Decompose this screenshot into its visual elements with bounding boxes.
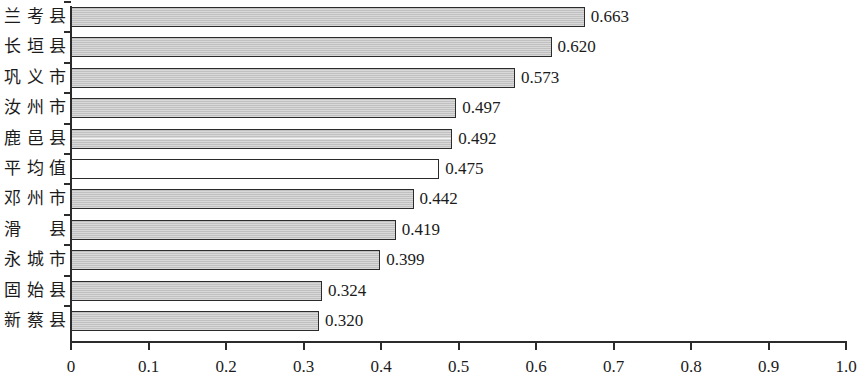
bar-value-label: 0.475 [445, 160, 483, 177]
y-axis-tick [64, 92, 71, 94]
bar-value-label: 0.399 [386, 251, 424, 268]
bar-value-label: 0.320 [325, 312, 363, 329]
x-axis-tick-label: 0.7 [589, 358, 639, 375]
x-axis-tick-label: 0.5 [434, 358, 484, 375]
scan-streak [72, 138, 451, 140]
bar-value-label: 0.419 [402, 221, 440, 238]
y-axis-tick [64, 214, 71, 216]
category-label: 平均值 [4, 160, 66, 177]
y-axis-tick [64, 183, 71, 185]
bar-value-label: 0.497 [462, 99, 500, 116]
bar-value-label: 0.663 [591, 8, 629, 25]
bar [71, 189, 414, 209]
category-label: 固始县 [4, 282, 66, 299]
y-axis-tick [64, 123, 71, 125]
x-axis-tick-label: 0.2 [201, 358, 251, 375]
category-label: 永城市 [4, 251, 66, 268]
bar [71, 37, 552, 57]
bar [71, 311, 319, 331]
bar [71, 68, 515, 88]
bar [71, 159, 439, 179]
x-axis-tick [380, 341, 382, 350]
bar-chart: 兰考县0.663长垣县0.620巩义市0.573汝州市0.497鹿邑县0.492… [0, 0, 861, 385]
x-axis-tick [148, 341, 150, 350]
category-label: 新蔡县 [4, 312, 66, 329]
x-axis-tick-label: 1.0 [821, 358, 861, 375]
y-axis-tick [64, 153, 71, 155]
bar [71, 98, 456, 118]
y-axis-tick [64, 31, 71, 33]
x-axis-tick-label: 0.1 [124, 358, 174, 375]
x-axis-tick [70, 341, 72, 350]
bar [71, 281, 322, 301]
x-axis-tick-label: 0.4 [356, 358, 406, 375]
x-axis-tick [303, 341, 305, 350]
bar-value-label: 0.620 [558, 38, 596, 55]
x-axis-tick [225, 341, 227, 350]
category-label: 汝州市 [4, 99, 66, 116]
category-label: 兰考县 [4, 8, 66, 25]
y-axis-tick [64, 275, 71, 277]
x-axis-tick [535, 341, 537, 350]
category-label: 鹿邑县 [4, 130, 66, 147]
bar-value-label: 0.324 [328, 282, 366, 299]
x-axis-tick-label: 0 [46, 358, 96, 375]
bar [71, 129, 452, 149]
y-axis-tick [64, 244, 71, 246]
y-axis-tick [64, 305, 71, 307]
category-label: 长垣县 [4, 38, 66, 55]
x-axis-tick [768, 341, 770, 350]
bar-value-label: 0.492 [458, 130, 496, 147]
bar [71, 220, 396, 240]
bar [71, 7, 585, 27]
x-axis-tick [613, 341, 615, 350]
category-label: 巩义市 [4, 69, 66, 86]
x-axis-tick-label: 0.6 [511, 358, 561, 375]
bar [71, 250, 380, 270]
bar-value-label: 0.442 [420, 190, 458, 207]
x-axis-tick-label: 0.9 [744, 358, 794, 375]
x-axis-tick [845, 341, 847, 350]
x-axis-tick-label: 0.8 [666, 358, 716, 375]
x-axis-tick [458, 341, 460, 350]
x-axis-tick [690, 341, 692, 350]
x-axis-tick-label: 0.3 [279, 358, 329, 375]
y-axis-tick [64, 1, 71, 3]
y-axis-tick [64, 62, 71, 64]
bar-value-label: 0.573 [521, 69, 559, 86]
category-label: 邓州市 [4, 190, 66, 207]
category-label: 滑 县 [4, 221, 66, 238]
